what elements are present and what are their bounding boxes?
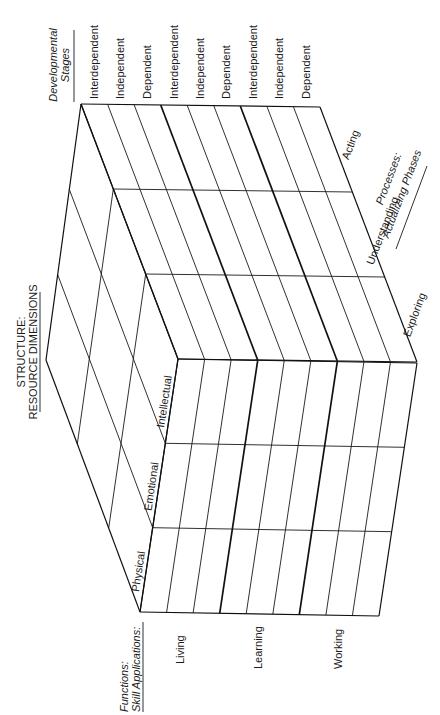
right-face-process-line: [113, 189, 352, 192]
right-face-stage-line: [214, 106, 311, 361]
structure-title-line1: STRUCTURE:: [15, 317, 27, 388]
stage-label: Independent: [194, 38, 206, 99]
right-face-stage-line: [161, 105, 258, 360]
right-face-stage-line: [108, 104, 205, 359]
front-face-resource-line: [165, 443, 404, 447]
stage-label: Dependent: [220, 45, 232, 99]
processes-heading: Processes: Actualizing Phases: [373, 148, 427, 249]
stage-label: Interdependent: [168, 25, 180, 99]
developmental-stages-heading-line1: Developmental: [47, 28, 59, 102]
front-face-resource-line: [153, 528, 392, 532]
function-label-living: Living: [174, 635, 186, 664]
developmental-stages-heading-line2: Stages: [59, 47, 71, 82]
stage-label: Independent: [273, 38, 285, 99]
structure-title-line2: RESOURCE DIMENSIONS: [27, 284, 39, 419]
right-face-stage-line: [240, 106, 337, 361]
cube-grid-lines: [46, 104, 417, 616]
stage-label: Interdependent: [247, 25, 259, 99]
right-face-stage-line: [187, 105, 284, 360]
resource-dimensions-cube-diagram: Developmental Stages Interdependent Inde…: [0, 0, 440, 715]
functions-heading-line2: Skill Applications:: [130, 627, 142, 712]
top-face-resource-line: [69, 189, 165, 443]
resource-label-emotional: Emotional: [141, 461, 160, 511]
function-label-learning: Learning: [252, 626, 264, 669]
functions-heading: Functions: Skill Applications:: [118, 622, 143, 712]
front-face-resource-line: [140, 612, 379, 616]
structure-title: STRUCTURE: RESOURCE DIMENSIONS: [15, 284, 40, 419]
stage-label: Independent: [114, 38, 126, 99]
function-labels: Living Learning Working: [174, 626, 344, 669]
resource-label-intellectual: Intellectual: [154, 375, 174, 429]
right-face-process-line: [146, 274, 385, 277]
top-face-resource-line: [81, 104, 178, 359]
process-label-exploring: Exploring: [401, 291, 428, 338]
function-label-working: Working: [332, 629, 344, 669]
right-face-stage-line: [134, 105, 231, 360]
top-face-process-line: [77, 189, 113, 444]
process-label-acting: Acting: [339, 128, 361, 161]
top-face-process-line: [109, 274, 146, 528]
developmental-stages-heading: Developmental Stages: [47, 28, 74, 102]
stage-label: Dependent: [300, 45, 312, 99]
stage-label: Interdependent: [88, 25, 100, 99]
developmental-stage-labels: Interdependent Independent Dependent Int…: [88, 25, 312, 99]
top-face-resource-line: [46, 360, 140, 612]
functions-heading-line1: Functions:: [118, 661, 130, 712]
stage-label: Dependent: [141, 45, 153, 99]
right-face-process-line: [81, 104, 320, 107]
top-face-resource-line: [58, 275, 153, 528]
right-face-stage-line: [320, 107, 417, 362]
